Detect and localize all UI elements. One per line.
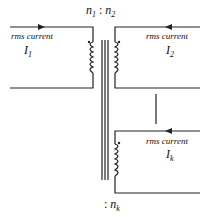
winding-2-label: rms current xyxy=(146,31,188,41)
winding-k-coil xyxy=(115,144,118,176)
arrow-i2 xyxy=(165,24,172,30)
turns-ratio-bottom: : nk xyxy=(104,197,120,213)
winding-1-coil xyxy=(90,42,93,73)
arrow-i1 xyxy=(38,24,45,30)
turns-ratio-top: n1 : n2 xyxy=(86,3,115,19)
winding-2-coil xyxy=(115,42,118,73)
polarity-dot-k xyxy=(118,142,120,144)
winding-2-bottom-wire xyxy=(115,73,200,88)
winding-2-current: I2 xyxy=(166,43,174,59)
winding-1-bottom-wire xyxy=(10,73,93,88)
polarity-dot-1 xyxy=(88,41,90,43)
winding-k-bottom-wire xyxy=(115,176,200,193)
winding-1-current: I1 xyxy=(24,43,32,59)
winding-1-label: rms current xyxy=(11,31,53,41)
winding-k-current: Ik xyxy=(166,147,174,163)
polarity-dot-2 xyxy=(118,41,120,43)
winding-k-label: rms current xyxy=(146,136,188,146)
arrow-ik xyxy=(165,128,172,134)
